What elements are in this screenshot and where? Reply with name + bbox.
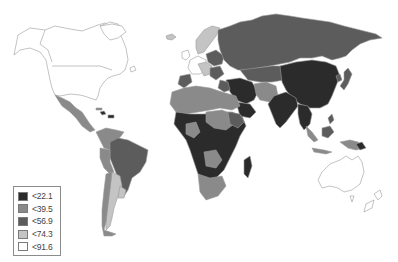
legend-entry: <91.6 — [18, 240, 56, 253]
europe — [178, 26, 224, 88]
legend-label: <74.3 — [32, 229, 53, 239]
iceland — [166, 34, 176, 40]
tasmania — [350, 196, 354, 202]
new-zealand — [364, 190, 382, 212]
legend-entry: <22.1 — [18, 190, 56, 203]
legend-swatch — [18, 217, 28, 226]
legend-swatch — [18, 230, 28, 239]
legend-label: <39.5 — [32, 204, 53, 214]
central-america — [55, 95, 114, 132]
legend-label: <56.9 — [32, 216, 53, 226]
legend-entry: <74.3 — [18, 228, 56, 241]
south-america — [96, 128, 148, 236]
legend-label: <22.1 — [32, 191, 53, 201]
legend-swatch — [18, 192, 28, 201]
legend-label: <91.6 — [32, 242, 53, 252]
legend-entry: <56.9 — [18, 215, 56, 228]
map-legend: <22.1 <39.5 <56.9 <74.3 <91.6 — [13, 186, 61, 256]
legend-swatch — [18, 204, 28, 213]
australia — [318, 156, 364, 192]
legend-swatch — [18, 242, 28, 251]
southeast-asia — [298, 104, 366, 154]
legend-entry: <39.5 — [18, 203, 56, 216]
